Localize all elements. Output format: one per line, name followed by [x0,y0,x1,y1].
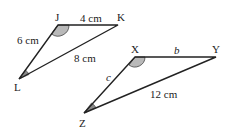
vertex-y-label: Y [212,43,220,55]
side-xy-label: b [174,44,180,56]
vertex-x-label: X [131,43,139,55]
side-jl-label: 6 cm [17,34,39,46]
side-jk-label: 4 cm [80,12,102,24]
side-xz-label: c [106,71,111,83]
triangle-xyz: X Y Z b c 12 cm [79,43,220,129]
similar-triangles-diagram: J K L 4 cm 6 cm 8 cm X Y Z b c 12 cm [0,0,233,139]
angle-x-marker [129,57,145,67]
triangle-xyz-edges [84,57,216,113]
vertex-l-label: L [14,81,21,93]
vertex-k-label: K [117,11,125,23]
side-yz-label: 12 cm [150,88,178,100]
side-kl-label: 8 cm [74,52,96,64]
vertex-z-label: Z [79,117,86,129]
vertex-j-label: J [55,11,60,23]
